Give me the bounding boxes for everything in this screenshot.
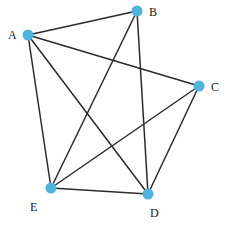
node-layer <box>23 6 205 200</box>
graph-figure: ABCDE <box>0 0 237 237</box>
graph-node-e[interactable] <box>46 183 57 194</box>
graph-node-label-c: C <box>211 81 219 93</box>
graph-edge-a-e <box>28 35 51 188</box>
graph-node-label-e: E <box>30 201 37 213</box>
graph-edge-a-b <box>28 11 137 35</box>
graph-edge-d-e <box>51 188 148 194</box>
graph-edge-c-e <box>51 86 199 188</box>
graph-node-label-b: B <box>149 6 157 18</box>
graph-edge-c-d <box>148 86 199 194</box>
graph-node-c[interactable] <box>194 81 205 92</box>
graph-node-b[interactable] <box>132 6 143 17</box>
graph-edge-b-d <box>137 11 148 194</box>
graph-node-a[interactable] <box>23 30 34 41</box>
graph-node-label-a: A <box>8 29 17 41</box>
edge-layer <box>28 11 199 194</box>
graph-node-d[interactable] <box>143 189 154 200</box>
graph-node-label-d: D <box>150 207 159 219</box>
graph-edge-a-d <box>28 35 148 194</box>
